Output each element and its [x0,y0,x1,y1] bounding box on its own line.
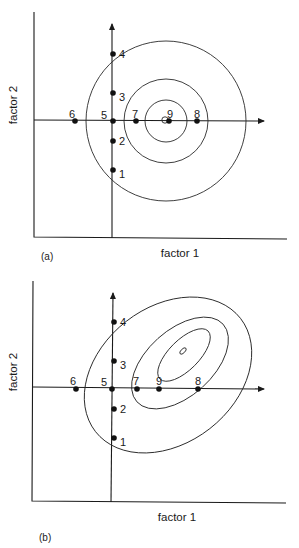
point-label-4: 4 [120,316,126,328]
data-point-1 [111,435,117,441]
panel-a-x-axis-label: factor 1 [161,247,199,259]
point-label-5: 5 [101,109,107,121]
point-label-6: 6 [70,375,76,387]
data-point-8 [195,386,201,392]
contour-center [179,347,187,355]
point-label-1: 1 [119,168,125,180]
point-label-3: 3 [120,359,126,371]
panel-a-horizontal-axis [34,120,264,121]
point-label-3: 3 [119,91,125,103]
point-label-1: 1 [120,436,126,448]
data-point-1 [110,167,116,173]
data-point-4 [110,51,116,57]
panel-b-point-labels: 1 2 3 4 5 6 7 9 8 [70,316,201,448]
point-label-6: 6 [69,108,75,120]
point-label-4: 4 [119,48,125,60]
data-point-7 [134,386,140,392]
point-label-7: 7 [132,108,138,120]
panel-a-y-axis-label: factor 2 [7,86,19,124]
point-label-2: 2 [120,403,126,415]
data-point-5 [110,118,116,124]
panel-b-contours [54,265,283,485]
panel-a: 1 2 3 4 5 6 7 9 8 factor 2 factor 1 (a) [7,12,287,262]
data-point-5 [109,386,115,392]
point-label-8: 8 [195,375,201,387]
panel-b-frame [32,281,286,503]
point-label-5: 5 [101,376,107,388]
data-point-3 [110,90,116,96]
contour-ellipse [54,265,283,485]
data-point-2 [110,138,116,144]
data-point-3 [111,358,117,364]
point-label-8: 8 [194,108,200,120]
panel-a-tag: (a) [41,251,53,262]
data-point-2 [111,406,117,412]
data-point-9 [156,386,162,392]
contour-ellipse [115,300,245,427]
panel-b: 1 2 3 4 5 6 7 9 8 factor 2 factor 1 (b) [7,265,286,543]
data-point-6 [73,386,79,392]
panel-b-tag: (b) [39,532,51,543]
point-label-9: 9 [167,108,173,120]
panel-b-x-axis-label: factor 1 [158,511,196,523]
point-label-9: 9 [156,375,162,387]
panel-a-frame [34,12,287,239]
point-label-2: 2 [119,135,125,147]
panel-b-horizontal-axis [33,387,264,389]
panel-b-y-axis-label: factor 2 [7,353,19,391]
figure: 1 2 3 4 5 6 7 9 8 factor 2 factor 1 (a) [0,0,299,548]
point-label-7: 7 [133,375,139,387]
data-point-4 [111,319,117,325]
